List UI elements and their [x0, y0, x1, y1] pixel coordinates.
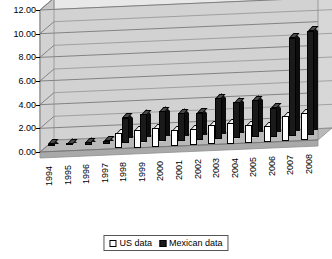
- y-axis-tick-label: 10.00: [13, 29, 36, 38]
- y-axis-tick: [36, 105, 40, 106]
- legend-label: US data: [119, 238, 152, 248]
- bar-us-data: [152, 128, 159, 146]
- x-axis-tick-label: 1995: [64, 165, 73, 185]
- bar-mexican-data: [233, 102, 240, 138]
- y-axis-tick-label: 0.00: [18, 148, 36, 157]
- x-axis-tick-label: 2000: [156, 161, 165, 181]
- y-axis-tick-label: 12.00: [13, 6, 36, 15]
- bar-us-data: [264, 126, 271, 142]
- bar-mexican-data: [103, 141, 110, 144]
- bar-mexican-data: [196, 113, 203, 140]
- y-axis: 12.0010.008.006.004.002.000.00: [0, 0, 36, 259]
- y-axis-tick: [36, 57, 40, 58]
- x-axis-tick-label: 2002: [194, 159, 203, 179]
- bar-us-data: [171, 130, 178, 146]
- bar-us-data: [282, 116, 289, 141]
- x-axis-tick-label: 2008: [305, 154, 314, 174]
- x-axis-tick-label: 1997: [101, 163, 110, 183]
- bar-us-data: [227, 123, 234, 143]
- bar-us-data: [115, 133, 122, 148]
- filled-square-icon: [159, 240, 166, 247]
- legend-label: Mexican data: [169, 238, 223, 248]
- x-axis-tick-label: 1999: [138, 162, 147, 182]
- bar-mexican-data: [270, 108, 277, 137]
- y-axis-tick: [36, 10, 40, 11]
- bar-mexican-data: [85, 142, 92, 144]
- x-axis-tick-label: 1994: [45, 166, 54, 186]
- y-axis-tick-label: 6.00: [18, 77, 36, 86]
- legend-item: US data: [109, 238, 152, 248]
- x-axis-tick-label: 2001: [175, 160, 184, 180]
- x-axis-tick-label: 1996: [82, 164, 91, 184]
- bar-mexican-data: [122, 118, 129, 143]
- bar-us-data: [301, 113, 308, 140]
- bar-us-data: [190, 129, 197, 145]
- x-axis-tick-label: 2007: [286, 155, 295, 175]
- y-axis-tick-label: 2.00: [18, 124, 36, 133]
- x-axis-tick-label: 2004: [231, 158, 240, 178]
- bar-us-data: [208, 125, 215, 144]
- x-axis-tick-label: 2003: [212, 158, 221, 178]
- y-axis-tick-label: 4.00: [18, 100, 36, 109]
- bar-mexican-data: [252, 100, 259, 137]
- x-axis-tick-label: 2005: [249, 157, 258, 177]
- x-axis-tick-label: 2006: [268, 156, 277, 176]
- bar-mexican-data: [140, 114, 147, 142]
- x-axis-tick-label: 1998: [119, 162, 128, 182]
- legend-item: Mexican data: [159, 238, 223, 248]
- bar-mexican-data: [178, 113, 185, 140]
- bar-mexican-data: [159, 111, 166, 141]
- bar-mexican-data: [215, 98, 222, 139]
- y-axis-tick: [36, 128, 40, 129]
- y-axis-tick: [36, 81, 40, 82]
- y-axis-tick: [36, 34, 40, 35]
- bar-us-data: [134, 130, 141, 147]
- bar-mexican-data: [289, 38, 296, 136]
- bar-mexican-data: [66, 143, 73, 145]
- bar-mexican-data: [48, 144, 55, 146]
- chart-legend: US dataMexican data: [103, 235, 228, 251]
- y-axis-tick-label: 8.00: [18, 53, 36, 62]
- bar-us-data: [245, 125, 252, 143]
- bar-chart: 12.0010.008.006.004.002.000.00 199419951…: [0, 0, 332, 259]
- y-axis-tick: [36, 152, 40, 153]
- bar-mexican-data: [307, 31, 314, 135]
- hollow-square-icon: [109, 240, 116, 247]
